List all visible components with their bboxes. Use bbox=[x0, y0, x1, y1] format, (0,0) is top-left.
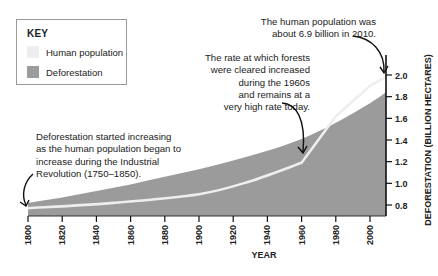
y-tick-label: 1.8 bbox=[395, 92, 408, 102]
y-axis-title: DEFORESTATION (BILLION HECTARES) bbox=[423, 54, 433, 226]
y-tick-label: 1.6 bbox=[395, 114, 408, 124]
y-tick-label: 1.0 bbox=[395, 179, 408, 189]
x-tick-label: 1980 bbox=[331, 225, 341, 245]
x-tick-label: 1840 bbox=[91, 225, 101, 245]
x-tick-label: 1900 bbox=[194, 225, 204, 245]
x-tick-label: 1920 bbox=[228, 225, 238, 245]
chart-canvas: 1800182018401860188019001920194019601980… bbox=[0, 0, 438, 276]
x-tick-label: 1960 bbox=[297, 225, 307, 245]
x-tick-label: 1880 bbox=[160, 225, 170, 245]
y-tick-label: 1.2 bbox=[395, 157, 408, 167]
y-tick-label: 0.8 bbox=[395, 201, 408, 211]
x-tick-label: 1820 bbox=[57, 225, 67, 245]
x-tick-label: 2000 bbox=[365, 225, 375, 245]
deforestation-area bbox=[28, 92, 386, 216]
x-tick-label: 1800 bbox=[23, 225, 33, 245]
x-tick-label: 1940 bbox=[262, 225, 272, 245]
y-tick-label: 1.4 bbox=[395, 136, 408, 146]
plot-area bbox=[28, 76, 387, 216]
y-tick-label: 2.0 bbox=[395, 71, 408, 81]
x-tick-label: 1860 bbox=[126, 225, 136, 245]
arrow-population-2010 bbox=[353, 36, 384, 72]
x-axis-title: YEAR bbox=[251, 250, 277, 260]
